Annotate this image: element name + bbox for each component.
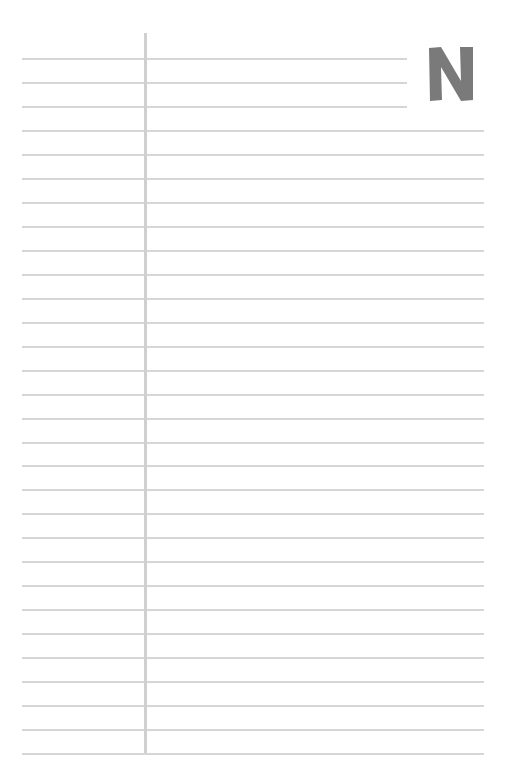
ruled-line	[22, 130, 484, 132]
ruled-line	[22, 465, 484, 467]
corner-letter-n	[427, 45, 475, 103]
ruled-line	[22, 729, 484, 731]
ruled-line	[22, 442, 484, 444]
ruled-line	[22, 82, 407, 84]
ruled-line	[22, 513, 484, 515]
ruled-line	[22, 609, 484, 611]
ruled-line	[22, 370, 484, 372]
ruled-line	[22, 226, 484, 228]
ruled-line	[22, 561, 484, 563]
ruled-line	[22, 753, 484, 755]
ruled-line	[22, 681, 484, 683]
ruled-line	[22, 298, 484, 300]
ruled-line	[22, 394, 484, 396]
ruled-line	[22, 322, 484, 324]
ruled-line	[22, 250, 484, 252]
ruled-line	[22, 489, 484, 491]
ruled-line	[22, 633, 484, 635]
notebook-page	[0, 0, 507, 783]
ruled-line	[22, 58, 407, 60]
ruled-line	[22, 202, 484, 204]
ruled-line	[22, 657, 484, 659]
ruled-line	[22, 585, 484, 587]
ruled-line	[22, 274, 484, 276]
ruled-line	[22, 346, 484, 348]
ruled-line	[22, 106, 407, 108]
ruled-line	[22, 705, 484, 707]
ruled-line	[22, 418, 484, 420]
ruled-line	[22, 537, 484, 539]
margin-line	[144, 33, 147, 753]
ruled-line	[22, 154, 484, 156]
ruled-line	[22, 178, 484, 180]
